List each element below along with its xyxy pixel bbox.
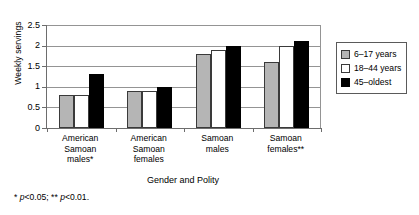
legend-item: 6–17 years — [341, 47, 401, 61]
bar-group — [184, 25, 253, 128]
bar-chart-figure: Weekly servings 00.511.522.5 AmericanSam… — [0, 0, 419, 215]
x-category-label: AmericanSamoanmales* — [46, 133, 115, 165]
y-tick-label: 0 — [35, 124, 40, 133]
y-tick-label: 2.5 — [27, 21, 40, 30]
plot-area — [46, 25, 321, 129]
x-axis-title: Gender and Polity — [46, 175, 320, 185]
x-category-label-line: American — [115, 133, 184, 144]
bar — [127, 91, 142, 128]
x-category-label-line: Samoan — [115, 144, 184, 155]
bar — [226, 46, 241, 128]
legend-item-label: 45–oldest — [354, 78, 391, 87]
bar — [264, 62, 279, 128]
bar — [211, 50, 226, 128]
footnote: * p<0.05; ** p<0.01. — [14, 192, 89, 202]
x-tick-mark — [116, 128, 117, 132]
y-tick-label: 1.5 — [27, 62, 40, 71]
bar-group — [253, 25, 322, 128]
x-category-label-line: Samoan — [183, 133, 252, 144]
bar-group — [47, 25, 116, 128]
y-axis-tick-labels: 00.511.522.5 — [14, 20, 40, 130]
x-tick-mark — [321, 128, 322, 132]
legend-swatch — [341, 50, 350, 59]
x-category-label-line: males — [183, 144, 252, 155]
bar — [279, 46, 294, 128]
bar — [74, 95, 89, 128]
bar-group — [116, 25, 185, 128]
bar — [196, 54, 211, 128]
y-tick-label: 0.5 — [27, 103, 40, 112]
legend-item-label: 18–44 years — [354, 64, 401, 73]
bar — [157, 87, 172, 128]
x-tick-mark — [253, 128, 254, 132]
x-category-label-line: females — [115, 154, 184, 165]
x-category-label: Samoanmales — [183, 133, 252, 165]
legend-swatch — [341, 64, 350, 73]
bar — [89, 74, 104, 128]
x-category-label-line: Samoan — [252, 133, 321, 144]
chart-legend: 6–17 years18–44 years45–oldest — [336, 42, 407, 94]
legend-swatch — [341, 78, 350, 87]
legend-item: 18–44 years — [341, 61, 401, 75]
y-tick-label: 2 — [35, 41, 40, 50]
x-tick-mark — [47, 128, 48, 132]
legend-item: 45–oldest — [341, 75, 401, 89]
footnote-text: * p<0.05; ** p<0.01. — [14, 192, 89, 202]
bar — [294, 41, 309, 128]
bar-groups — [47, 25, 321, 128]
bar — [59, 95, 74, 128]
x-category-label: Samoanfemales** — [252, 133, 321, 165]
x-category-label-line: males* — [46, 154, 115, 165]
x-category-label-line: American — [46, 133, 115, 144]
x-tick-mark — [184, 128, 185, 132]
y-tick-label: 1 — [35, 82, 40, 91]
x-category-label-line: Samoan — [46, 144, 115, 155]
x-axis-category-labels: AmericanSamoanmales*AmericanSamoanfemale… — [46, 133, 320, 165]
x-category-label: AmericanSamoanfemales — [115, 133, 184, 165]
legend-item-label: 6–17 years — [354, 50, 397, 59]
x-category-label-line: females** — [252, 144, 321, 155]
bar — [142, 91, 157, 128]
